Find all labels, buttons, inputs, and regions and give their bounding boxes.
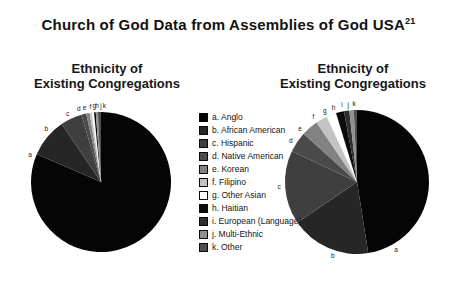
legend-item-h: h. Haitian <box>199 202 301 215</box>
pie-label-k-right: k <box>352 100 356 107</box>
left-pie-title-line2: Existing Congregations <box>25 76 189 91</box>
legend-label-g: g. Other Asian <box>212 191 266 200</box>
pie-label-b-left: b <box>44 125 48 132</box>
footnote-reference: 21 <box>405 16 415 26</box>
legend-swatch-k <box>199 243 208 252</box>
legend-swatch-e <box>199 165 208 174</box>
legend-swatch-d <box>199 152 208 161</box>
legend-item-k: k. Other <box>199 241 301 254</box>
pie-label-b-right: b <box>331 252 335 259</box>
right-pie-title-line2: Existing Congregations <box>271 76 435 91</box>
legend-label-f: f. Filipino <box>212 178 246 187</box>
legend-item-f: f. Filipino <box>199 176 301 189</box>
pie-label-f-left: f <box>89 103 91 110</box>
pie-label-j-left: j <box>99 102 101 110</box>
left-pie-chart: abcdefghjk <box>16 97 186 267</box>
pie-label-d-left: d <box>77 105 81 112</box>
pie-label-j-right: j <box>346 101 348 109</box>
figure: Church of God Data from Assemblies of Go… <box>0 0 457 288</box>
pie-label-i-right: i <box>341 101 342 108</box>
legend-label-e: e. Korean <box>212 165 249 174</box>
pie-label-g-right: g <box>323 107 327 115</box>
legend-swatch-b <box>199 126 208 135</box>
legend-label-i: i. European (Language) <box>212 217 301 226</box>
right-pie-title-line1: Ethnicity of <box>271 61 435 76</box>
pie-label-e-left: e <box>83 104 87 111</box>
legend-swatch-h <box>199 204 208 213</box>
pie-label-a-right: a <box>394 246 398 253</box>
pie-label-c-left: c <box>66 110 70 117</box>
legend-item-i: i. European (Language) <box>199 215 301 228</box>
figure-title: Church of God Data from Assemblies of Go… <box>0 16 457 33</box>
legend-label-b: b. African American <box>212 126 285 135</box>
legend-item-d: d. Native American <box>199 150 301 163</box>
legend: a. Anglob. African Americanc. Hispanicd.… <box>199 111 301 254</box>
legend-label-k: k. Other <box>212 243 242 252</box>
legend-item-j: j. Multi-Ethnic <box>199 228 301 241</box>
left-pie-title: Ethnicity of Existing Congregations <box>25 61 189 91</box>
pie-label-h-right: h <box>332 104 336 111</box>
legend-swatch-g <box>199 191 208 200</box>
legend-swatch-c <box>199 139 208 148</box>
legend-item-b: b. African American <box>199 124 301 137</box>
legend-label-h: h. Haitian <box>212 204 248 213</box>
legend-item-e: e. Korean <box>199 163 301 176</box>
legend-item-c: c. Hispanic <box>199 137 301 150</box>
legend-swatch-a <box>199 113 208 122</box>
legend-label-j: j. Multi-Ethnic <box>212 230 263 239</box>
pie-label-h-left: h <box>95 102 99 109</box>
legend-label-c: c. Hispanic <box>212 139 254 148</box>
pie-label-a-left: a <box>28 151 32 158</box>
legend-swatch-j <box>199 230 208 239</box>
pie-label-k-left: k <box>103 102 107 109</box>
left-pie-title-line1: Ethnicity of <box>25 61 189 76</box>
legend-item-g: g. Other Asian <box>199 189 301 202</box>
pie-slice-a-right <box>357 110 429 253</box>
legend-swatch-f <box>199 178 208 187</box>
pie-label-f-right: f <box>312 113 314 120</box>
legend-label-d: d. Native American <box>212 152 283 161</box>
figure-title-text: Church of God Data from Assemblies of Go… <box>42 16 405 33</box>
legend-item-a: a. Anglo <box>199 111 301 124</box>
right-pie-title: Ethnicity of Existing Congregations <box>271 61 435 91</box>
legend-label-a: a. Anglo <box>212 113 243 122</box>
legend-swatch-i <box>199 217 208 226</box>
